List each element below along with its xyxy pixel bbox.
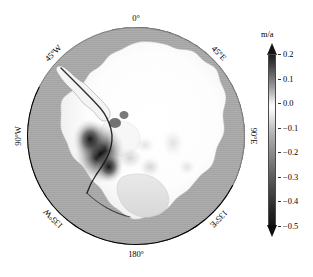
colorbar-tick [278, 177, 281, 178]
map-limb-highlight-ne [27, 27, 245, 245]
colorbar-extend-cap-bottom [267, 225, 277, 237]
colorbar-tick-label: 0.1 [283, 74, 293, 83]
colorbar-tick [278, 103, 281, 104]
lon-90e-label: 90°E [249, 128, 259, 144]
colorbar-unit-label: m/a [261, 30, 274, 39]
colorbar-tick-label: 0.2 [283, 50, 293, 59]
colorbar-tick [278, 128, 281, 129]
colorbar-tick-label: −0.3 [283, 172, 298, 181]
colorbar-gradient [268, 54, 276, 226]
colorbar-tick-label: 0.0 [283, 99, 293, 108]
lon-90w-label: 90°W [13, 126, 23, 145]
colorbar: 0.20.10.0−0.1−0.2−0.3−0.4−0.5 [266, 43, 278, 237]
colorbar-tick-label: −0.5 [283, 222, 298, 231]
figure-antarctic-elevation-change-map: 0°45°E90°E135°E180°135°W90°W45°W m/a 0.2… [0, 0, 313, 277]
lon-0-label: 0° [132, 13, 139, 23]
colorbar-tick [278, 201, 281, 202]
colorbar-tick [278, 152, 281, 153]
colorbar-tick-label: −0.1 [283, 123, 298, 132]
colorbar-tick [278, 226, 281, 227]
colorbar-tick [278, 54, 281, 55]
map-disc [27, 27, 245, 245]
colorbar-tick [278, 79, 281, 80]
polar-map [27, 27, 245, 245]
lon-180-label: 180° [128, 249, 144, 259]
colorbar-tick-label: −0.4 [283, 197, 298, 206]
colorbar-tick-label: −0.2 [283, 148, 298, 157]
